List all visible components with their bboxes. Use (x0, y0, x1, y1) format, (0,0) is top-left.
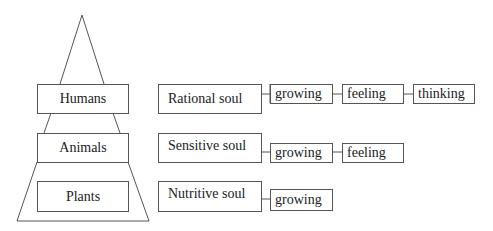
pyramid-edge-left (60, 15, 82, 84)
faculty-feeling: feeling (342, 84, 404, 104)
faculty-growing: growing (270, 189, 333, 211)
soul-label: Nutritive soul (168, 187, 245, 201)
soul-rational: Rational soul (158, 84, 262, 114)
faculty-label: growing (275, 146, 322, 160)
pyramid-level-plants: Plants (37, 181, 129, 212)
faculty-label: feeling (347, 146, 386, 160)
faculty-label: growing (275, 87, 322, 101)
soul-label: Rational soul (168, 92, 242, 106)
faculty-label: growing (275, 193, 322, 207)
level-label: Animals (59, 141, 106, 155)
level-label: Humans (60, 92, 107, 106)
soul-hierarchy-diagram: Humans Animals Plants Rational soul Sens… (0, 0, 493, 231)
faculty-thinking: thinking (413, 84, 475, 104)
soul-nutritive: Nutritive soul (158, 181, 262, 212)
soul-label: Sensitive soul (168, 139, 246, 153)
faculty-feeling: feeling (342, 143, 404, 163)
soul-sensitive: Sensitive soul (158, 133, 262, 163)
faculty-label: feeling (347, 87, 386, 101)
pyramid-level-animals: Animals (37, 133, 129, 163)
faculty-growing: growing (270, 84, 333, 104)
faculty-growing: growing (270, 143, 333, 163)
level-label: Plants (66, 190, 100, 204)
pyramid-level-humans: Humans (37, 84, 129, 114)
pyramid-edge-right (82, 15, 104, 84)
faculty-label: thinking (418, 87, 465, 101)
